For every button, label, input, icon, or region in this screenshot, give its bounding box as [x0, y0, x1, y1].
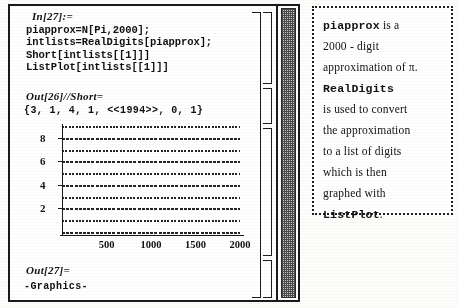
mathematica-notebook-window: In[27]:= piapprox=N[Pi,2000]; intlists=R…	[8, 4, 300, 302]
cell-bracket-plot[interactable]	[263, 128, 272, 256]
annotation-line: graphed with	[323, 183, 443, 204]
annotation-text: is used to convert	[323, 103, 407, 115]
plot-digit-row	[62, 161, 240, 163]
annotation-code-token: RealDigits	[323, 82, 394, 95]
plot-y-tick-label: 4	[40, 180, 46, 191]
output-graphics-value: -Graphics-	[24, 281, 88, 292]
plot-digit-row	[62, 232, 240, 234]
plot-x-tick-label: 1500	[185, 239, 206, 250]
code-line-2[interactable]: intlists=RealDigits[piapprox];	[26, 36, 212, 48]
plot-y-tick-label: 8	[40, 133, 46, 144]
cell-bracket-group	[246, 6, 272, 300]
plot-x-tick-label: 500	[99, 239, 115, 250]
plot-x-tick-label: 1000	[141, 239, 162, 250]
output-graphics-label: Out[27]=	[26, 264, 70, 276]
annotation-line: ListPlot.	[323, 204, 443, 225]
annotation-line: to a list of digits	[323, 141, 443, 162]
plot-digit-row	[62, 138, 240, 140]
plot-y-tick-label: 6	[40, 156, 46, 167]
plot-digit-row	[62, 150, 240, 152]
cell-bracket-input[interactable]	[263, 12, 272, 84]
annotation-code-token: ListPlot	[323, 208, 380, 221]
plot-digit-row	[62, 126, 240, 128]
notebook-scrollbar[interactable]	[276, 6, 298, 300]
plot-digit-row	[62, 185, 240, 187]
plot-digit-row	[62, 220, 240, 222]
plot-digit-row	[62, 197, 240, 199]
output-short-label: Out[26]//Short=	[26, 90, 103, 102]
annotation-line: RealDigits	[323, 78, 443, 99]
annotation-text: 2000 - digit	[323, 40, 379, 52]
notebook-content-area: In[27]:= piapprox=N[Pi,2000]; intlists=R…	[10, 6, 298, 300]
plot-y-tick-label: 2	[40, 203, 46, 214]
plot-y-tick	[58, 208, 63, 209]
scrollbar-track[interactable]	[281, 8, 296, 298]
plot-y-tick	[58, 138, 63, 139]
code-line-1[interactable]: piapprox=N[Pi,2000];	[26, 24, 212, 36]
annotation-text: graphed with	[323, 187, 386, 199]
plot-digit-row	[62, 208, 240, 210]
output-short-value: {3, 1, 4, 1, <<1994>>, 0, 1}	[24, 105, 203, 116]
annotation-code-token: piapprox	[323, 19, 380, 32]
annotation-line: approximation of π.	[323, 57, 443, 78]
plot-y-tick	[58, 161, 63, 162]
annotation-line: piapprox is a	[323, 15, 443, 36]
annotation-text: the approximation	[323, 124, 410, 136]
annotation-text: is a	[380, 19, 400, 31]
annotation-line: 2000 - digit	[323, 36, 443, 57]
code-line-3[interactable]: Short[intlists[[1]]]	[26, 49, 212, 61]
plot-y-tick	[58, 185, 63, 186]
annotation-text: .	[380, 208, 383, 220]
cell-bracket-output-graphics[interactable]	[263, 260, 272, 298]
annotation-text: which is then	[323, 166, 387, 178]
annotation-panel: piapprox is a2000 - digitapproximation o…	[312, 6, 453, 215]
code-line-4[interactable]: ListPlot[intlists[[1]]]	[26, 61, 212, 73]
plot-data-area	[62, 126, 240, 232]
plot-digit-row	[62, 173, 240, 175]
annotation-text: to a list of digits	[323, 145, 402, 157]
plot-x-axis	[60, 235, 244, 236]
listplot-graphics[interactable]: 2468 500100015002000	[32, 122, 250, 252]
input-cell-label: In[27]:=	[32, 10, 73, 22]
notebook-cell-column: In[27]:= piapprox=N[Pi,2000]; intlists=R…	[20, 6, 252, 300]
notebook-outer-bracket[interactable]	[252, 12, 261, 298]
annotation-text: approximation of π.	[323, 61, 418, 73]
annotation-line: the approximation	[323, 120, 443, 141]
annotation-line: which is then	[323, 162, 443, 183]
input-cell-code[interactable]: piapprox=N[Pi,2000]; intlists=RealDigits…	[26, 24, 212, 74]
cell-bracket-output-short[interactable]	[263, 88, 272, 124]
annotation-line: is used to convert	[323, 99, 443, 120]
